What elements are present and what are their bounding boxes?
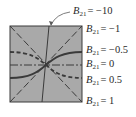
label-b21-neg10: B21= −10 [73, 5, 112, 18]
label-b21-0-5: B21= 0.5 [86, 74, 122, 87]
label-b21-neg1: B21= −1 [86, 23, 120, 36]
diagram-canvas: B21= −10 B21= −1 B21= −0.5 B21= 0 B21= 0… [0, 0, 136, 117]
label-b21-neg0-5: B21= −0.5 [86, 44, 128, 57]
arrow-pointer [51, 12, 70, 25]
label-b21-1: B21= 1 [86, 95, 114, 108]
svg-text:B21= −10: B21= −10 [73, 5, 112, 18]
svg-text:B21= 0: B21= 0 [86, 58, 114, 71]
svg-text:B21= 1: B21= 1 [86, 95, 114, 108]
svg-text:B21= 0.5: B21= 0.5 [86, 74, 122, 87]
svg-text:B21= −1: B21= −1 [86, 23, 120, 36]
svg-text:B21= −0.5: B21= −0.5 [86, 44, 128, 57]
label-b21-0: B21= 0 [86, 58, 114, 71]
